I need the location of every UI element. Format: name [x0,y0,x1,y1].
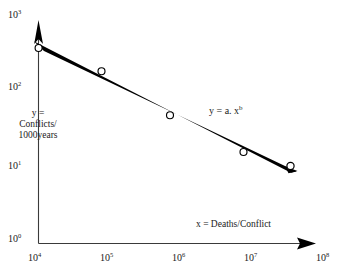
x-tick-label-1e5: 105 [100,252,113,263]
data-point-marker [240,149,247,156]
fit-equation-annotation: y = a. xb [209,104,243,116]
data-point-marker [167,112,174,119]
y-axis-caption: y = Conflicts/ 1000years [6,108,70,142]
data-point-marker [98,68,105,75]
y-tick-label-100: 102 [8,81,21,92]
x-tick-label-1e6: 106 [172,252,185,263]
y-axis-caption-line-2: Conflicts/ [6,119,70,130]
power-law-trend-band [34,41,297,173]
x-axis-caption: x = Deaths/Conflict [196,219,271,230]
x-tick-label-1e4: 104 [28,252,41,263]
y-tick-label-10: 101 [8,160,21,171]
y-axis-caption-line-1: y = [6,108,70,119]
x-tick-label-1e7: 107 [244,252,257,263]
fit-equation-exponent: b [239,104,243,112]
data-point-marker [287,162,294,169]
y-axis-caption-line-3: 1000years [6,130,70,141]
fit-equation-text: y = a. x [209,105,239,116]
figure-root: 103 102 101 100 y = Conflicts/ 1000years… [0,0,343,274]
y-tick-label-1: 100 [8,233,21,244]
data-point-marker [35,45,42,52]
y-tick-label-1000: 103 [8,9,21,20]
x-tick-label-1e8: 108 [316,252,329,263]
